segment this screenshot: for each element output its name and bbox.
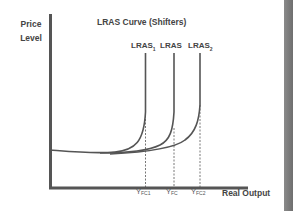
tick-yfc2: YFC2 — [191, 187, 205, 196]
y-axis-label-line2: Level — [16, 31, 46, 45]
lras2-curve — [110, 53, 200, 154]
diagram-canvas: Price Level LRAS Curve (Shifters) LRAS1 … — [0, 0, 293, 211]
tick-yfc: YFC — [166, 187, 178, 196]
x-axis-label: Real Output — [222, 188, 270, 198]
lras-label: LRAS — [160, 41, 182, 50]
tick-yfc1: YFC1 — [136, 187, 150, 196]
lras2-label: LRAS2 — [188, 41, 213, 52]
lras1-curve — [50, 53, 146, 153]
chart-title: LRAS Curve (Shifters) — [97, 17, 186, 27]
right-edge-bar — [284, 0, 293, 211]
lras1-label: LRAS1 — [131, 41, 156, 52]
lras-curve — [100, 53, 174, 153]
y-axis-label-line1: Price — [16, 17, 46, 31]
y-axis-label: Price Level — [16, 17, 46, 45]
